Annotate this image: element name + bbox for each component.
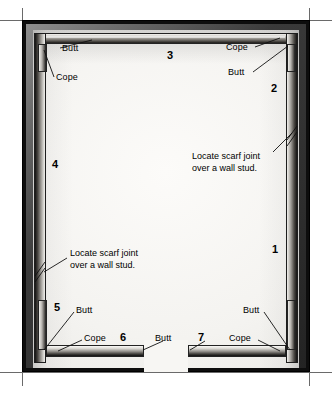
corner-return-top-right [287,44,296,72]
label-top-right-cope: Cope [226,42,248,53]
molding-piece-7-baseboard [188,345,286,357]
crop-mark-right-bottom [309,372,310,386]
note-right-scarf: Locate scarf joint over a wall stud. [192,151,260,174]
piece-number-1: 1 [272,243,278,255]
doorway-opening [144,340,188,372]
label-bottom-left-cope: Cope [84,333,106,344]
piece-number-4: 4 [52,158,58,170]
crop-mark-bottom [0,372,332,373]
piece-number-7: 7 [198,331,204,343]
piece-number-3: 3 [167,49,173,61]
note-right-line2: over a wall stud. [192,163,260,175]
piece-number-6: 6 [120,331,126,343]
piece-number-5: 5 [54,301,60,313]
note-right-line1: Locate scarf joint [192,151,260,163]
note-left-line2: over a wall stud. [70,260,138,272]
label-bottom-right-butt: Butt [243,305,259,316]
label-bottom-mid-butt: Butt [155,333,171,344]
label-bottom-right-cope: Cope [229,333,251,344]
label-top-left-butt: Butt [62,43,78,54]
crop-mark-left-bottom [22,372,23,386]
corner-return-bottom-right [287,300,296,350]
corner-return-top-left [38,44,47,72]
corner-return-bottom-left [38,300,47,350]
label-top-left-cope: Cope [56,72,78,83]
molding-diagram: Butt Cope Cope Butt Butt Cope Butt Butt … [0,0,332,393]
molding-piece-6-baseboard [46,345,144,357]
note-left-scarf: Locate scarf joint over a wall stud. [70,248,138,271]
piece-number-2: 2 [271,82,277,94]
label-top-right-butt: Butt [228,67,244,78]
label-bottom-left-butt: Butt [76,305,92,316]
note-left-line1: Locate scarf joint [70,248,138,260]
